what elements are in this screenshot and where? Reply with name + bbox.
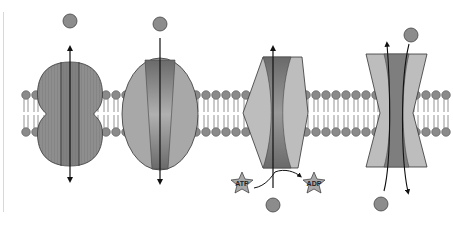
solute-particle	[404, 28, 418, 42]
solute-particle	[374, 197, 388, 211]
transport-diagram: ATP ADP	[0, 0, 453, 226]
adp-label: ADP	[307, 180, 322, 187]
solute-particle	[266, 198, 280, 212]
atp-hydrolysis-arrow	[254, 170, 300, 188]
atp-label: ATP	[235, 180, 249, 187]
solute-particle	[153, 17, 167, 31]
carrier-protein	[122, 17, 198, 182]
solute-particle	[63, 14, 77, 28]
channel-protein	[38, 14, 103, 180]
